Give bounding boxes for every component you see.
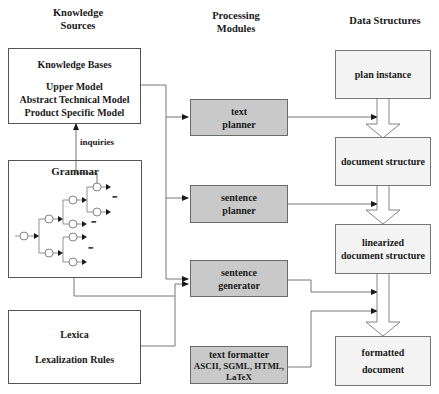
sentence-generator-module: sentence generator (190, 260, 288, 297)
module-label-line: planner (222, 118, 255, 131)
grammar-ellipsis: ••• (112, 193, 116, 201)
data-structure-label: plan instance (355, 68, 411, 81)
kb-item-upper-model: Upper Model (46, 80, 103, 93)
grammar-to-generator-line (74, 277, 188, 296)
inquiries-label: inquiries (80, 137, 114, 147)
data-structure-label: formatted (362, 346, 405, 359)
lexica-box: Lexica Lexalization Rules (8, 310, 141, 384)
data-structure-label: linearized (362, 236, 404, 249)
module-label-line: sentence (221, 191, 257, 204)
plan-instance-box: plan instance (335, 50, 431, 99)
grammar-ellipsis: ••• (88, 244, 92, 252)
grammar-ellipsis: ••• (91, 218, 95, 226)
sentence-planner-module: sentence planner (190, 185, 288, 223)
knowledge-bases-title: Knowledge Bases (37, 58, 111, 71)
text-formatter-module: text formatter ASCII, SGML, HTML, LaTeX (190, 346, 288, 384)
data-structure-label: document structure (341, 155, 425, 168)
block-arrow-2 (366, 185, 400, 224)
text-planner-module: text planner (190, 99, 288, 136)
block-arrow-1 (366, 98, 400, 138)
module-label-line: text (231, 105, 247, 118)
module-label-line: sentence (221, 266, 257, 279)
lexalization-rules-label: Lexalization Rules (35, 353, 114, 366)
kb-to-sentence-generator-line (166, 198, 188, 279)
formatted-document-box: formatted document (335, 336, 431, 386)
document-structure-box: document structure (335, 137, 431, 186)
block-arrow-3 (366, 273, 400, 336)
module-label-line: planner (222, 204, 255, 217)
linearized-document-structure-box: linearized document structure (335, 224, 431, 274)
module-label-line: ASCII, SGML, HTML, (194, 361, 284, 372)
grammar-box: Grammar (8, 160, 142, 278)
kb-to-sentence-planner-line (141, 85, 188, 198)
module-label-line: generator (218, 279, 260, 292)
module-label-line: LaTeX (226, 372, 252, 383)
lexica-label: Lexica (60, 328, 88, 341)
module-label-line: text formatter (209, 348, 269, 361)
generator-to-spine (288, 280, 377, 292)
data-structure-label: document structure (341, 249, 425, 262)
kb-item-product-specific-model: Product Specific Model (25, 106, 125, 119)
knowledge-bases-box: Knowledge Bases Upper Model Abstract Tec… (8, 48, 141, 124)
kb-item-abstract-technical-model: Abstract Technical Model (20, 93, 130, 106)
grammar-title: Grammar (51, 165, 99, 178)
data-structure-label: document (362, 363, 404, 376)
